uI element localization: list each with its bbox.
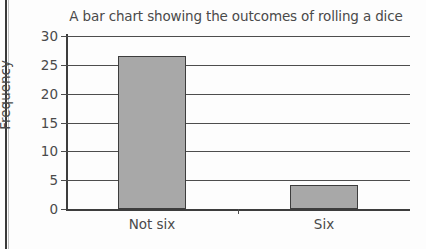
- x-axis-tick: [238, 209, 239, 214]
- bar: [118, 56, 186, 209]
- plot-area: [66, 36, 410, 209]
- y-tick-label: 20: [14, 86, 58, 102]
- y-axis-tick: [61, 209, 66, 210]
- x-tick-label: Six: [264, 216, 384, 232]
- y-axis-title: Frequency: [0, 60, 13, 130]
- y-axis-tick: [61, 65, 66, 66]
- y-tick-label: 15: [14, 115, 58, 131]
- y-tick-label: 30: [14, 28, 58, 44]
- chart-title: A bar chart showing the outcomes of roll…: [52, 8, 420, 24]
- gridline: [66, 36, 410, 37]
- bar: [290, 185, 358, 209]
- y-tick-label: 10: [14, 143, 58, 159]
- bar-chart-screenshot: A bar chart showing the outcomes of roll…: [0, 0, 426, 249]
- y-tick-label: 0: [14, 201, 58, 217]
- y-axis-tick: [61, 180, 66, 181]
- y-axis-tick: [61, 151, 66, 152]
- y-axis-tick: [61, 123, 66, 124]
- y-axis-tick: [61, 36, 66, 37]
- y-tick-label: 25: [14, 57, 58, 73]
- x-tick-label: Not six: [92, 216, 212, 232]
- y-tick-label: 5: [14, 172, 58, 188]
- y-axis-tick: [61, 94, 66, 95]
